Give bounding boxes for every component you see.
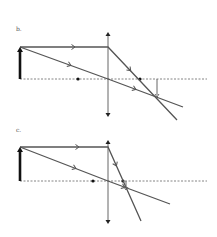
diagram-b-lens-top-arrow-icon — [106, 32, 111, 36]
ray-diagrams — [0, 0, 217, 237]
diagram-c-lens-bottom-arrow-icon — [106, 220, 111, 224]
diagram-c-focal-point-1 — [91, 179, 94, 182]
diagram-c-chief-ray — [20, 147, 170, 204]
diagram-b-focal-point-1 — [76, 77, 79, 80]
diagram-b-lens-bottom-arrow-icon — [106, 113, 111, 117]
diagram-c-lens-top-arrow-icon — [106, 140, 111, 144]
diagram-b-chief-ray — [20, 47, 183, 107]
diagram-b-parallel-ray — [20, 47, 177, 120]
